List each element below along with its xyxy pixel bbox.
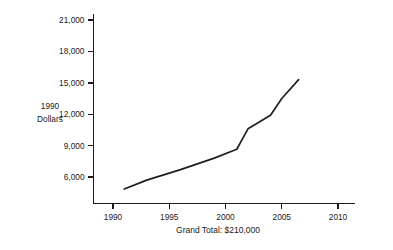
y-tick-label: 18,000 <box>59 46 85 56</box>
chart-container: 6,0009,00012,00015,00018,00021,000 19901… <box>0 0 393 250</box>
x-tick-label: 1995 <box>160 212 179 222</box>
y-tick-label: 9,000 <box>64 141 85 151</box>
y-tick-label: 21,000 <box>59 15 85 25</box>
x-tick-label: 2000 <box>216 212 235 222</box>
line-chart: 6,0009,00012,00015,00018,00021,000 19901… <box>0 0 393 250</box>
x-tick-label: 2010 <box>329 212 348 222</box>
y-axis-tick-labels: 6,0009,00012,00015,00018,00021,000 <box>59 15 85 182</box>
chart-caption: Grand Total: $210,000 <box>176 225 260 235</box>
x-tick-label: 1990 <box>104 212 123 222</box>
y-tick-label: 15,000 <box>59 78 85 88</box>
y-axis-title-line1: 1990 <box>41 101 60 111</box>
y-axis-tick-marks <box>88 20 94 177</box>
y-tick-label: 12,000 <box>59 109 85 119</box>
x-tick-label: 2005 <box>273 212 292 222</box>
y-tick-label: 6,000 <box>64 172 85 182</box>
x-axis-tick-labels: 19901995200020052010 <box>104 212 348 222</box>
data-series-line <box>124 80 298 189</box>
x-axis-tick-marks <box>113 204 338 210</box>
y-axis-title-line2: Dollars <box>37 114 63 124</box>
chart-axes <box>94 14 356 204</box>
